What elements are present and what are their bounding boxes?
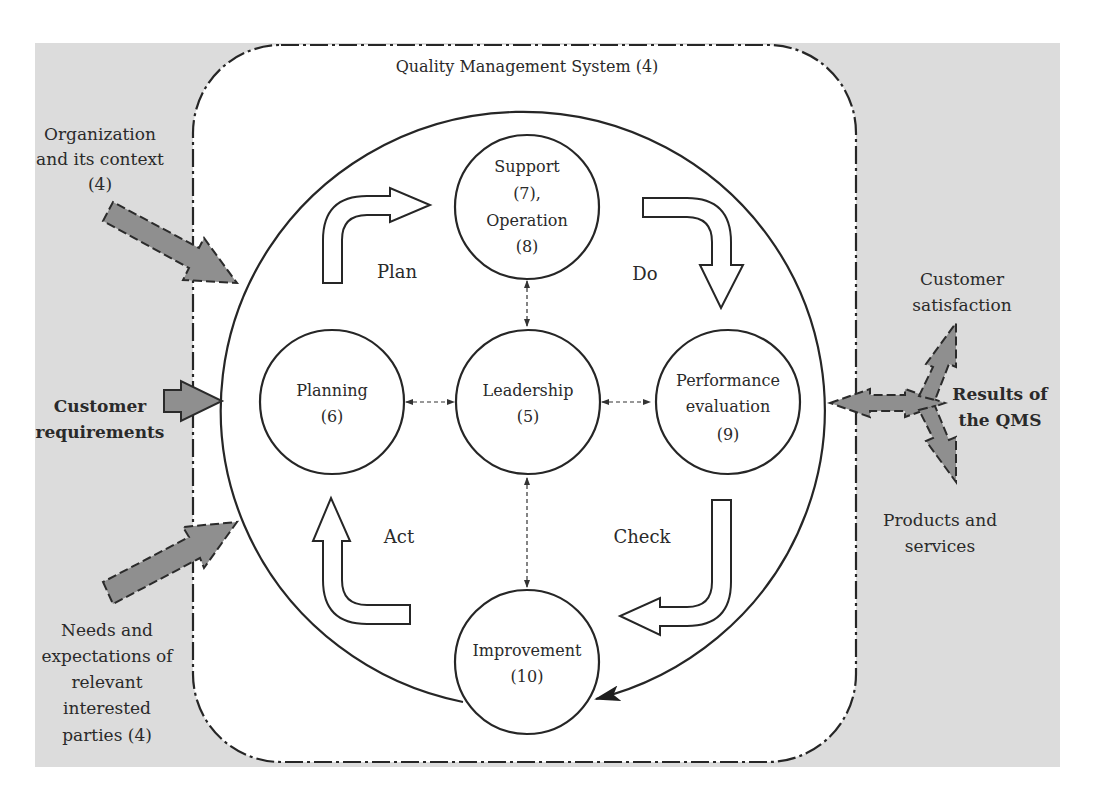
svg-text:satisfaction: satisfaction (912, 295, 1011, 315)
node-improvement-line-1: Improvement (473, 641, 582, 660)
svg-text:requirements: requirements (36, 422, 165, 442)
node-planning-line-1: Planning (296, 381, 368, 400)
svg-text:expectations of: expectations of (41, 646, 174, 666)
svg-text:Needs and: Needs and (61, 620, 153, 640)
node-performance-line-3: (9) (717, 425, 740, 444)
svg-text:relevant: relevant (71, 672, 142, 692)
node-support-line-4: (8) (516, 237, 539, 256)
node-performance-line-2: evaluation (686, 397, 771, 416)
node-planning: Planning (6) (260, 330, 404, 474)
svg-text:Results of: Results of (952, 384, 1049, 404)
node-performance-line-1: Performance (676, 371, 780, 390)
svg-text:Organization: Organization (44, 124, 156, 144)
svg-text:Products and: Products and (883, 510, 997, 530)
svg-text:services: services (905, 536, 975, 556)
svg-text:Customer: Customer (920, 269, 1005, 289)
node-planning-line-2: (6) (321, 407, 344, 426)
svg-text:the QMS: the QMS (959, 410, 1042, 430)
node-support-line-1: Support (494, 157, 560, 176)
qms-title: Quality Management System (4) (396, 57, 659, 76)
svg-text:Customer: Customer (54, 396, 147, 416)
node-leadership-line-2: (5) (517, 407, 540, 426)
node-improvement: Improvement (10) (455, 590, 599, 734)
node-leadership-line-1: Leadership (483, 381, 574, 400)
node-support-operation: Support (7), Operation (8) (455, 135, 599, 279)
node-leadership: Leadership (5) (456, 330, 600, 474)
act-label: Act (383, 526, 415, 547)
do-label: Do (632, 263, 657, 284)
check-label: Check (613, 526, 671, 547)
svg-text:interested: interested (63, 698, 151, 718)
node-support-line-3: Operation (486, 211, 568, 230)
node-improvement-line-2: (10) (511, 667, 544, 686)
svg-text:and its context: and its context (36, 149, 164, 169)
node-support-line-2: (7), (513, 184, 541, 203)
svg-text:(4): (4) (88, 174, 112, 194)
qms-diagram: Quality Management System (4) Plan Do Ch… (0, 0, 1096, 801)
plan-label: Plan (377, 261, 418, 282)
node-performance-evaluation: Performance evaluation (9) (656, 330, 800, 474)
svg-text:parties (4): parties (4) (62, 725, 152, 745)
